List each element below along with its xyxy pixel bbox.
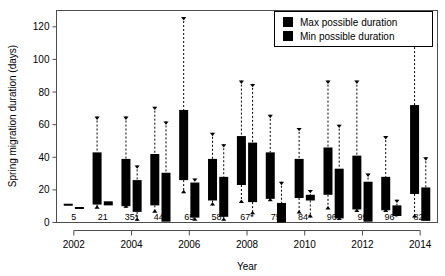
y-axis-title: Spring migration duration (days) — [7, 45, 18, 187]
legend-label-max: Max possible duration — [300, 17, 397, 28]
x-tick-label: 2006 — [178, 239, 201, 250]
whisker-cap-upper — [163, 121, 168, 124]
whisker-cap-upper — [423, 157, 428, 160]
legend-swatch-max — [283, 17, 293, 27]
x-tick-label: 2010 — [294, 239, 317, 250]
whisker-cap-upper — [181, 17, 186, 20]
whisker-cap-lower — [325, 206, 330, 209]
sample-size-label: 84* — [298, 212, 312, 222]
box-bar — [121, 159, 130, 206]
sample-size-label: 67* — [240, 212, 254, 222]
whisker-cap-lower — [181, 190, 186, 193]
whisker-cap-upper — [152, 107, 157, 110]
x-tick-label: 2002 — [63, 239, 86, 250]
box-bar — [64, 204, 73, 206]
box-bar — [104, 201, 113, 205]
x-tick-label: 2012 — [351, 239, 374, 250]
whisker-cap-upper — [210, 133, 215, 136]
y-axis: 020406080100120 — [33, 21, 57, 228]
box-bar — [323, 147, 332, 194]
y-tick-label: 0 — [44, 217, 50, 228]
whisker-cap-upper — [192, 178, 197, 181]
whisker-cap-upper — [365, 174, 370, 177]
whisker-cap-upper — [135, 165, 140, 168]
box-bar — [352, 156, 361, 210]
sample-size-labels: 52135*44*6558*67*7584*96*9996*82* — [71, 212, 427, 222]
x-axis-title: Year — [237, 261, 258, 272]
whisker-cap-upper — [279, 182, 284, 185]
box-bar — [208, 159, 217, 201]
whisker-cap-upper — [221, 144, 226, 147]
series-layer — [64, 17, 431, 222]
box-bar — [266, 152, 275, 198]
x-tick-label: 2014 — [409, 239, 432, 250]
whisker-cap-upper — [337, 125, 342, 128]
box-bar — [179, 110, 188, 180]
y-tick-label: 80 — [38, 87, 50, 98]
whisker-cap-upper — [394, 200, 399, 203]
y-tick-label: 40 — [38, 152, 50, 163]
x-axis: 2002200420062008201020122014 — [63, 231, 432, 250]
box-bar — [150, 154, 159, 205]
legend-swatch-min — [283, 31, 293, 41]
box-bar — [381, 177, 390, 210]
box-bar — [237, 136, 246, 185]
sample-size-label: 65 — [184, 212, 194, 222]
box-bar — [295, 159, 304, 198]
sample-size-label: 75 — [271, 212, 281, 222]
whisker-cap-lower — [94, 205, 99, 208]
chart-legend: Max possible duration Min possible durat… — [275, 12, 433, 47]
x-tick-label: 2004 — [120, 239, 143, 250]
whisker-cap-upper — [297, 128, 302, 131]
sample-size-label: 58* — [211, 212, 225, 222]
whisker-cap-lower — [210, 202, 215, 205]
whisker-cap-upper — [308, 190, 313, 193]
spring-migration-duration-chart: 020406080100120 200220042006200820102012… — [0, 0, 445, 276]
whisker-cap-upper — [383, 136, 388, 139]
sample-size-label: 21 — [98, 212, 108, 222]
box-bar — [133, 180, 142, 212]
sample-size-label: 5 — [71, 212, 76, 222]
y-tick-label: 120 — [33, 21, 50, 32]
whisker-cap-upper — [250, 84, 255, 87]
sample-size-label: 44* — [154, 212, 168, 222]
sample-size-label: 96* — [385, 212, 399, 222]
sample-size-label: 99 — [357, 212, 367, 222]
x-tick-label: 2008 — [236, 239, 259, 250]
legend-label-min: Min possible duration — [300, 31, 395, 42]
chart-figure: 020406080100120 200220042006200820102012… — [0, 0, 445, 276]
whisker-cap-lower — [239, 200, 244, 203]
box-bar — [248, 143, 257, 203]
whisker-cap-upper — [239, 81, 244, 84]
sample-size-label: 35* — [125, 212, 139, 222]
box-bar — [93, 152, 102, 204]
whisker-cap-upper — [94, 117, 99, 120]
whisker-cap-upper — [354, 81, 359, 84]
sample-size-label: 82* — [413, 212, 427, 222]
sample-size-label: 96* — [327, 212, 341, 222]
box-bar — [410, 105, 419, 194]
y-tick-label: 100 — [33, 54, 50, 65]
y-tick-label: 60 — [38, 119, 50, 130]
whisker-cap-upper — [268, 115, 273, 118]
box-bar — [75, 207, 84, 209]
whisker-cap-upper — [123, 117, 128, 120]
whisker-cap-upper — [325, 81, 330, 84]
box-bar — [306, 195, 315, 201]
y-tick-label: 20 — [38, 184, 50, 195]
